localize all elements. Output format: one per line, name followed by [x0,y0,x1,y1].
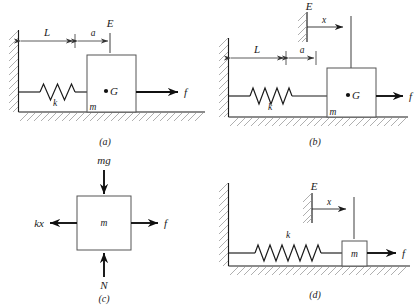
label-m: m [101,218,108,228]
reference-datum-E: E [298,0,313,42]
wall-hatching [9,31,18,112]
panel-a: L a E k m G f (a) [0,0,210,153]
caption-b: (b) [309,136,321,148]
label-k: k [268,102,273,112]
wall-left [219,183,229,266]
label-G: G [352,89,360,101]
label-x: x [326,197,332,207]
wall-hatching [219,183,228,266]
ground-hatching [230,266,407,275]
label-E: E [305,0,313,12]
caption-a: (a) [99,136,111,148]
spring: k [19,84,88,108]
label-m: m [351,249,358,259]
force-f: f [136,86,189,98]
dimension-L: L [231,43,286,65]
label-m: m [90,102,97,112]
dimension-a: a [289,45,316,65]
wall-hatching [219,38,228,117]
ground-hatching [230,117,407,126]
block-mass: m [342,241,367,266]
label-f: f [402,247,407,259]
center-of-gravity-dot [104,89,108,93]
label-L: L [253,43,260,55]
force-f: f [376,90,414,102]
label-L: L [43,26,50,38]
panel-c: m mg N kx f (c) [0,153,210,306]
ground [229,117,409,126]
displacement-x: x [312,197,354,239]
label-kx: kx [34,217,44,229]
center-of-gravity-dot [346,93,350,97]
label-k: k [53,98,58,108]
label-f: f [409,90,414,102]
wall-left [219,38,229,117]
block-mass: m G [327,68,376,117]
ground [229,266,411,275]
label-m: m [330,107,337,117]
caption-c: (c) [98,293,110,305]
panel-b: E x L a k m G [210,0,420,153]
force-f: f [367,247,407,259]
wall-left [9,30,19,112]
label-E: E [310,180,318,192]
label-x: x [321,15,327,25]
ground [19,112,206,121]
ground-hatching [20,112,204,121]
reference-line-E: E [106,17,114,53]
label-G: G [110,85,118,97]
label-f: f [184,86,189,98]
caption-d: (d) [309,289,321,301]
label-N: N [99,279,108,291]
force-kx: kx [34,217,77,229]
dimension-a: a [78,28,108,41]
force-N: N [99,253,108,291]
force-mg: mg [97,154,111,194]
datum-hatching [303,193,312,223]
force-f: f [131,217,169,229]
label-a: a [91,28,96,38]
datum-hatching [298,12,307,42]
label-mg: mg [97,154,111,166]
label-f: f [164,217,169,229]
spring: k [229,230,343,261]
label-a: a [300,45,305,55]
label-k: k [286,230,291,240]
label-E: E [106,17,114,29]
reference-datum-E: E [303,180,318,223]
spring: k [229,88,328,112]
dimension-L: L [21,26,75,48]
free-body-block: m [77,196,131,250]
figure-canvas: L a E k m G f (a) [0,0,420,306]
displacement-x: x [307,15,351,72]
panel-d: E x k m f (d) [210,153,420,306]
block-mass: m G [87,55,136,112]
